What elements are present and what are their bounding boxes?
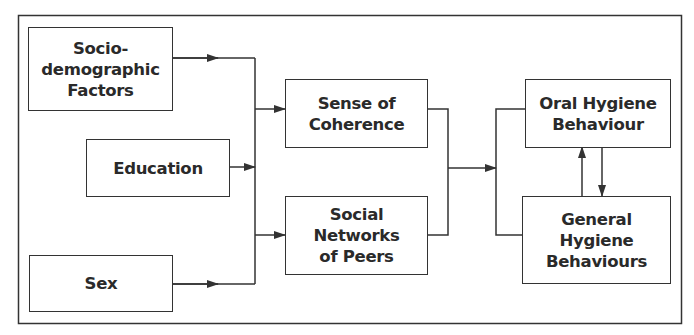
middle-bracket bbox=[427, 109, 448, 235]
node-label: Sex bbox=[85, 273, 118, 294]
node-label: Oral Hygiene Behaviour bbox=[539, 93, 656, 135]
node-social-networks-of-peers: Social Networks of Peers bbox=[285, 196, 428, 275]
node-sex: Sex bbox=[29, 255, 173, 312]
node-sense-of-coherence: Sense of Coherence bbox=[285, 79, 428, 148]
node-label: Social Networks of Peers bbox=[314, 204, 400, 267]
node-education: Education bbox=[86, 139, 230, 197]
node-socio-demographic-factors: Socio- demographic Factors bbox=[28, 27, 173, 111]
node-label: Sense of Coherence bbox=[309, 93, 405, 135]
node-general-hygiene-behaviours: General Hygiene Behaviours bbox=[522, 196, 671, 284]
outcome-bracket bbox=[496, 109, 525, 235]
node-label: Socio- demographic Factors bbox=[41, 38, 159, 101]
node-oral-hygiene-behaviour: Oral Hygiene Behaviour bbox=[525, 79, 671, 148]
node-label: General Hygiene Behaviours bbox=[546, 209, 647, 272]
node-label: Education bbox=[113, 158, 203, 179]
